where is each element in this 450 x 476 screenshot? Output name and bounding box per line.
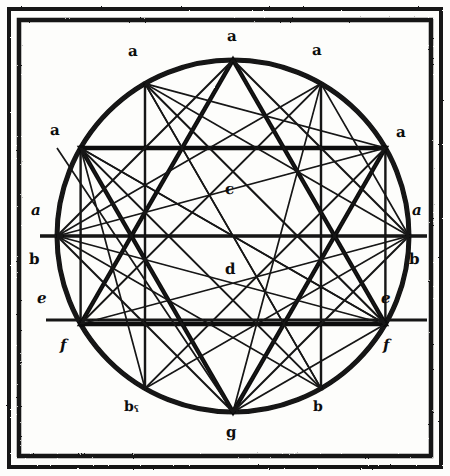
geometric-figure <box>0 0 450 476</box>
label-bottom-center: g <box>226 425 236 440</box>
label-top-center: a <box>227 29 236 44</box>
label-top-left: a <box>128 44 137 59</box>
label-upper-left: a <box>50 123 59 138</box>
label-top-right: a <box>312 43 321 58</box>
label-left-f: f <box>60 338 66 353</box>
label-right-f: f <box>383 338 389 353</box>
label-bottom-left-b: b <box>124 400 134 414</box>
label-left-e: e <box>37 291 47 306</box>
label-left-a: a <box>31 203 41 218</box>
label-region-d: d <box>225 262 236 277</box>
label-right-e: e <box>381 291 391 306</box>
label-right-b: b <box>409 252 420 267</box>
diagram-page: a a a a a a a b b e e f f b ʕ b g c d <box>0 0 450 476</box>
label-left-b: b <box>29 252 40 267</box>
label-region-c: c <box>225 182 234 197</box>
label-right-a: a <box>412 203 422 218</box>
label-upper-right: a <box>396 125 405 140</box>
label-bottom-right-b: b <box>313 400 323 414</box>
